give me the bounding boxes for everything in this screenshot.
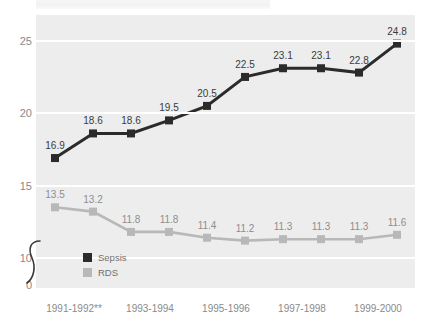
gridline bbox=[36, 185, 415, 187]
data-point-marker[interactable] bbox=[51, 154, 59, 162]
data-point-marker[interactable] bbox=[355, 235, 363, 243]
data-point-label: 19.5 bbox=[159, 102, 178, 113]
data-point-label: 23.1 bbox=[311, 50, 330, 61]
x-tick-label: 1991-1992** bbox=[46, 303, 102, 314]
data-point-label: 18.6 bbox=[121, 115, 140, 126]
data-point-label: 11.2 bbox=[236, 223, 255, 234]
chart-figure: 101520250 Sepsis RDS 1991-1992**1993-199… bbox=[0, 0, 427, 324]
data-point-marker[interactable] bbox=[127, 228, 135, 236]
data-point-marker[interactable] bbox=[241, 237, 249, 245]
data-point-label: 13.2 bbox=[83, 194, 102, 205]
legend-item-sepsis[interactable]: Sepsis bbox=[83, 250, 127, 265]
data-point-label: 23.1 bbox=[273, 50, 292, 61]
data-point-label: 11.4 bbox=[198, 220, 217, 231]
data-point-marker[interactable] bbox=[165, 228, 173, 236]
cut-off-caption-strip bbox=[36, 0, 270, 9]
axis-break-icon bbox=[24, 238, 46, 286]
data-point-marker[interactable] bbox=[393, 231, 401, 239]
data-point-marker[interactable] bbox=[317, 235, 325, 243]
data-point-marker[interactable] bbox=[279, 64, 287, 72]
gridline bbox=[36, 40, 415, 42]
data-point-marker[interactable] bbox=[203, 102, 211, 110]
data-point-marker[interactable] bbox=[165, 116, 173, 124]
legend-label-sepsis: Sepsis bbox=[98, 252, 127, 263]
data-point-marker[interactable] bbox=[203, 234, 211, 242]
data-point-label: 24.8 bbox=[387, 26, 406, 37]
data-point-label: 11.3 bbox=[312, 221, 331, 232]
series-line-rds bbox=[55, 207, 397, 240]
data-point-label: 11.6 bbox=[388, 217, 407, 228]
data-point-label: 22.5 bbox=[235, 59, 254, 70]
chart-legend: Sepsis RDS bbox=[83, 250, 127, 280]
data-point-label: 11.8 bbox=[160, 214, 179, 225]
legend-swatch-sepsis bbox=[83, 253, 92, 262]
data-point-label: 16.9 bbox=[45, 140, 64, 151]
data-point-marker[interactable] bbox=[241, 73, 249, 81]
data-point-label: 13.5 bbox=[45, 189, 64, 200]
data-point-marker[interactable] bbox=[89, 129, 97, 137]
data-point-marker[interactable] bbox=[89, 208, 97, 216]
data-point-marker[interactable] bbox=[127, 129, 135, 137]
x-tick-label: 1999-2000 bbox=[354, 303, 402, 314]
y-tick-label: 15 bbox=[2, 180, 32, 192]
x-tick-label: 1997-1998 bbox=[278, 303, 326, 314]
legend-label-rds: RDS bbox=[98, 267, 118, 278]
data-point-label: 11.8 bbox=[122, 214, 141, 225]
gridline bbox=[36, 112, 415, 114]
data-point-marker[interactable] bbox=[317, 64, 325, 72]
x-tick-label: 1993-1994 bbox=[126, 303, 174, 314]
series-line-sepsis bbox=[55, 44, 397, 159]
data-point-label: 20.5 bbox=[197, 88, 216, 99]
legend-swatch-rds bbox=[83, 268, 92, 277]
data-point-marker[interactable] bbox=[279, 235, 287, 243]
x-axis-labels: 1991-1992**1993-19941995-19961997-199819… bbox=[0, 303, 427, 321]
data-point-label: 22.8 bbox=[349, 55, 368, 66]
y-tick-label: 25 bbox=[2, 35, 32, 47]
legend-item-rds[interactable]: RDS bbox=[83, 265, 127, 280]
x-tick-label: 1995-1996 bbox=[202, 303, 250, 314]
y-tick-label: 20 bbox=[2, 107, 32, 119]
data-point-label: 18.6 bbox=[83, 115, 102, 126]
data-point-marker[interactable] bbox=[355, 69, 363, 77]
data-point-marker[interactable] bbox=[51, 203, 59, 211]
data-point-label: 11.3 bbox=[350, 221, 369, 232]
data-point-label: 11.3 bbox=[274, 221, 293, 232]
